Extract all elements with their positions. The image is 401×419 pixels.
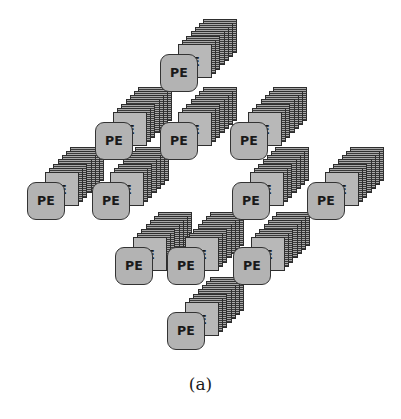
pe-label: PE	[125, 260, 143, 273]
pe-box: PE	[230, 122, 268, 160]
pe-box: PE	[232, 182, 270, 220]
pe-label: PE	[240, 135, 258, 148]
pe-box: PE	[115, 247, 153, 285]
pe-ce-node: CEPE	[233, 215, 319, 295]
pe-box: PE	[233, 247, 271, 285]
pe-label: PE	[243, 260, 261, 273]
pe-box: PE	[160, 122, 198, 160]
pe-label: PE	[102, 195, 120, 208]
pe-box: PE	[307, 182, 345, 220]
pe-ce-node: CEPE	[167, 280, 253, 360]
pe-label: PE	[317, 195, 335, 208]
pe-box: PE	[27, 182, 65, 220]
pe-box: PE	[167, 247, 205, 285]
pe-label: PE	[242, 195, 260, 208]
pe-box: PE	[167, 312, 205, 350]
figure-caption: (a)	[0, 374, 401, 394]
pe-label: PE	[177, 260, 195, 273]
pe-label: PE	[37, 195, 55, 208]
pe-label: PE	[170, 135, 188, 148]
pe-box: PE	[160, 54, 198, 92]
pe-label: PE	[105, 135, 123, 148]
figure-canvas: CEPECEPECEPECEPECEPECEPECEPECEPECEPECEPE…	[0, 0, 401, 372]
pe-box: PE	[92, 182, 130, 220]
pe-label: PE	[177, 325, 195, 338]
pe-label: PE	[170, 67, 188, 80]
pe-ce-node: CEPE	[307, 150, 393, 230]
pe-box: PE	[95, 122, 133, 160]
